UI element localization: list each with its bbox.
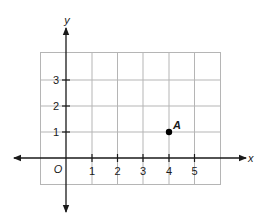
- x-axis-label: x: [247, 152, 254, 164]
- origin-label: O: [54, 163, 63, 175]
- x-tick-label: 1: [89, 165, 95, 177]
- point-a-label: A: [172, 119, 181, 131]
- x-tick-label: 5: [191, 165, 197, 177]
- point-a: [166, 129, 172, 135]
- y-tick-label: 1: [53, 126, 59, 138]
- coordinate-plane: 1 2 3 4 5 1 2 3 x y O A: [0, 0, 263, 217]
- x-tick-label: 3: [140, 165, 146, 177]
- x-tick-label: 2: [114, 165, 120, 177]
- x-tick-label: 4: [166, 165, 172, 177]
- y-axis-label: y: [63, 14, 71, 26]
- y-tick-label: 2: [53, 100, 59, 112]
- y-tick-label: 3: [53, 74, 59, 86]
